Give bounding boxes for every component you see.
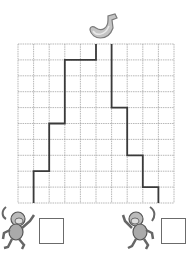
monkey-icon xyxy=(120,203,158,251)
monkey-icon xyxy=(0,203,38,251)
left-path xyxy=(34,44,96,203)
right-path xyxy=(112,44,159,203)
answer-box-left[interactable] xyxy=(39,218,64,244)
answer-box-right[interactable] xyxy=(161,218,186,244)
